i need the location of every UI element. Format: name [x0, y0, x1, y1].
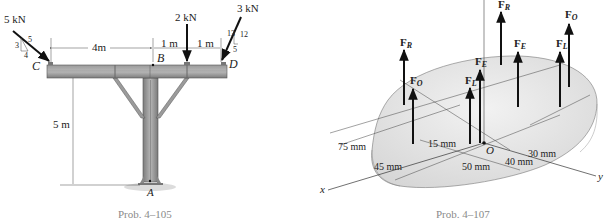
y-axis-label: y	[597, 170, 603, 182]
svg-text:FO: FO	[565, 8, 578, 22]
svg-text:3 kN: 3 kN	[237, 2, 259, 14]
figure-prob-4-105: 5 kN 3 5 4 2 kN 3 kN 13 12 5 C B D A 4m …	[4, 2, 259, 219]
svg-text:FE: FE	[475, 55, 487, 69]
caption-prob-4-105: Prob. 4–105	[118, 208, 172, 219]
point-d: D	[228, 57, 238, 71]
base-plate	[138, 183, 163, 185]
load-arrow-3kn	[222, 17, 241, 60]
beam	[47, 65, 227, 78]
svg-text:2 kN: 2 kN	[175, 11, 197, 23]
svg-text:FE: FE	[514, 37, 526, 51]
x-axis-label: x	[319, 183, 325, 195]
right-brace	[156, 78, 189, 118]
svg-text:5: 5	[233, 45, 237, 54]
dim-45mm: 45 mm	[374, 161, 402, 172]
dim-1m-a: 1 m	[161, 37, 178, 49]
caption-prob-4-107: Prob. 4–107	[436, 208, 490, 219]
dim-15mm: 15 mm	[428, 138, 456, 149]
diagram-canvas: 5 kN 3 5 4 2 kN 3 kN 13 12 5 C B D A 4m …	[0, 0, 607, 219]
origin-label: O	[486, 144, 494, 156]
point-a: A	[146, 186, 154, 198]
svg-text:3: 3	[15, 41, 19, 50]
dim-30mm: 30 mm	[528, 148, 556, 159]
dim-50mm: 50 mm	[462, 161, 490, 172]
svg-text:5: 5	[28, 35, 32, 44]
left-brace	[113, 78, 145, 118]
dim-4m: 4m	[92, 41, 107, 53]
svg-text:13: 13	[227, 29, 235, 38]
figure-prob-4-107: x y O FR FR FO FE FL	[319, 0, 603, 219]
svg-text:FR: FR	[498, 0, 511, 12]
svg-text:4: 4	[24, 51, 28, 60]
svg-text:FL: FL	[556, 37, 568, 51]
point-c: C	[32, 59, 41, 73]
dim-1m-b: 1 m	[197, 37, 214, 49]
load-label-5kn: 5 kN	[4, 13, 26, 25]
dim-5m: 5 m	[53, 118, 70, 130]
dim-75mm: 75 mm	[338, 141, 366, 152]
point-b: B	[157, 51, 165, 65]
svg-text:12: 12	[240, 30, 248, 39]
svg-text:FR: FR	[400, 36, 413, 50]
force-fr-top: FR	[498, 0, 511, 65]
